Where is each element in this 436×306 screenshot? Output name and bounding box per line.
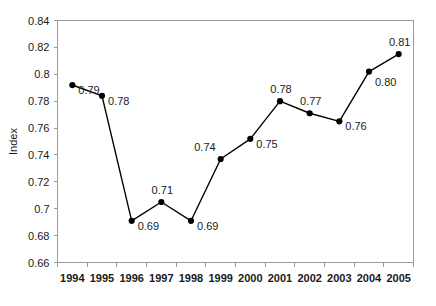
- line-chart: 0.660.680.70.720.740.760.780.80.820.8419…: [0, 0, 436, 306]
- data-point-marker[interactable]: [218, 156, 224, 162]
- x-tick-label: 1999: [208, 272, 232, 284]
- x-tick-label: 1995: [90, 272, 114, 284]
- data-point-marker[interactable]: [247, 136, 253, 142]
- x-tick-label: 2005: [386, 272, 410, 284]
- x-tick-label: 2004: [357, 272, 382, 284]
- data-point-label: 0.71: [152, 184, 173, 196]
- y-tick-label: 0.74: [28, 149, 49, 161]
- data-point-marker[interactable]: [307, 110, 313, 116]
- y-tick-label: 0.68: [28, 230, 49, 242]
- y-tick-label: 0.76: [28, 122, 49, 134]
- data-point-label: 0.69: [197, 220, 218, 232]
- data-point-label: 0.76: [345, 120, 366, 132]
- data-series-line: [72, 54, 398, 221]
- y-tick-label: 0.72: [28, 176, 49, 188]
- x-tick-label: 2000: [238, 272, 262, 284]
- data-point-label: 0.78: [270, 83, 291, 95]
- data-point-label: 0.78: [108, 95, 129, 107]
- x-tick-label: 1997: [149, 272, 173, 284]
- data-point-marker[interactable]: [158, 199, 164, 205]
- data-point-label: 0.75: [256, 138, 277, 150]
- x-tick-label: 2002: [297, 272, 321, 284]
- x-tick-label: 1996: [119, 272, 143, 284]
- y-tick-label: 0.66: [28, 257, 49, 269]
- x-tick-label: 2003: [327, 272, 351, 284]
- data-point-label: 0.79: [78, 84, 99, 96]
- chart-canvas: 0.660.680.70.720.740.760.780.80.820.8419…: [0, 0, 436, 306]
- y-tick-label: 0.8: [34, 68, 49, 80]
- data-point-label: 0.80: [375, 76, 396, 88]
- data-point-marker[interactable]: [366, 68, 372, 74]
- y-tick-label: 0.78: [28, 95, 49, 107]
- data-point-marker[interactable]: [336, 118, 342, 124]
- y-axis-title: Index: [7, 128, 19, 155]
- data-point-marker[interactable]: [188, 218, 194, 224]
- x-tick-label: 1998: [179, 272, 203, 284]
- y-tick-label: 0.7: [34, 203, 49, 215]
- x-tick-label: 1994: [60, 272, 85, 284]
- data-point-marker[interactable]: [396, 51, 402, 57]
- data-point-label: 0.69: [138, 220, 159, 232]
- data-point-label: 0.74: [194, 141, 215, 153]
- x-tick-label: 2001: [268, 272, 292, 284]
- data-point-label: 0.81: [389, 36, 410, 48]
- y-tick-label: 0.84: [28, 15, 49, 27]
- data-point-marker[interactable]: [69, 82, 75, 88]
- y-tick-label: 0.82: [28, 41, 49, 53]
- data-point-marker[interactable]: [129, 218, 135, 224]
- data-point-marker[interactable]: [99, 93, 105, 99]
- data-point-marker[interactable]: [277, 98, 283, 104]
- data-point-label: 0.77: [300, 95, 321, 107]
